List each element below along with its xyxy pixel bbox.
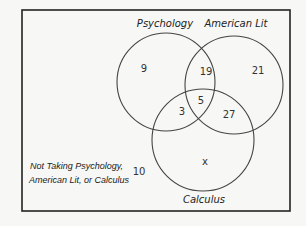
psychology-label: Psychology [137,18,194,29]
region-american-lit-only: 21 [252,65,265,76]
region-none: 10 [133,166,146,177]
region-american-lit-calculus: 27 [223,109,236,120]
region-psychology-american-lit: 19 [200,66,213,77]
outside-label-line1: Not Taking Psychology, [30,161,123,171]
american-lit-label: American Lit [203,18,268,29]
region-psychology-only: 9 [141,63,147,74]
region-psychology-calculus: 3 [179,106,185,117]
region-calculus-only: x [202,156,208,167]
region-all-three: 5 [198,95,204,106]
psychology-circle [117,33,215,131]
outside-label-line2: American Lit, or Calculus [28,175,130,185]
venn-diagram: Psychology American Lit Calculus 9 21 19… [0,0,306,226]
calculus-label: Calculus [183,194,225,205]
